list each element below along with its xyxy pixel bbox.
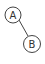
node-a-label: A: [10, 10, 17, 21]
node-b: B: [24, 36, 41, 53]
edge-a-b: [19, 20, 28, 36]
tree-diagram: A B: [0, 0, 45, 64]
node-b-label: B: [29, 39, 36, 50]
node-a: A: [5, 7, 21, 23]
